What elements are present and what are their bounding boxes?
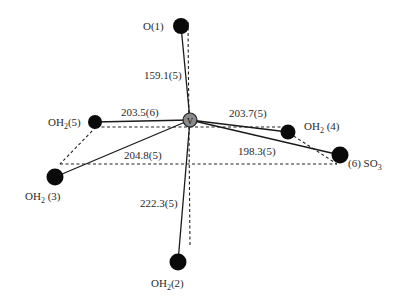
bonds [55, 26, 340, 262]
atom-oh2-3 [47, 169, 64, 186]
atom-so3-6 [332, 147, 349, 164]
bond-length-label-oh2-4: 203.7(5) [229, 107, 267, 120]
bond-v-oh2-5 [95, 120, 190, 122]
label-oh2-4: OH2 (4) [304, 120, 340, 135]
bond-length-label-oh2-3: 204.8(5) [124, 149, 162, 162]
label-oh2-3: OH2 (3) [25, 190, 61, 205]
label-o1: O(1) [143, 20, 164, 33]
center-atom-v: V [183, 113, 197, 127]
bond-length-label-o1: 159.1(5) [144, 69, 182, 82]
bond-length-label-so3-6: 198.3(5) [238, 145, 276, 158]
label-oh2-2: OH2(2) [151, 277, 184, 292]
atom-oh2-2 [170, 254, 187, 271]
bond-length-label-oh2-5: 203.5(6) [121, 106, 159, 119]
bond-v-oh2-4 [190, 120, 288, 132]
coordination-diagram: V O(1) OH2(5) OH2 (4) (6) SO3 OH2 (3) OH… [0, 0, 400, 300]
bond-length-label-oh2-2: 222.3(5) [140, 197, 178, 210]
center-atom-label: V [187, 116, 194, 126]
equatorial-left-dashed [60, 127, 96, 164]
label-oh2-5: OH2(5) [48, 116, 81, 131]
bond-v-oh2-2 [178, 120, 190, 262]
dashed-guides [60, 22, 337, 246]
ligand-atoms [47, 18, 349, 271]
label-so3-6: (6) SO3 [348, 157, 382, 172]
atom-oh2-4 [281, 125, 296, 140]
atom-oh2-5 [88, 115, 102, 129]
atom-o1 [173, 18, 189, 34]
